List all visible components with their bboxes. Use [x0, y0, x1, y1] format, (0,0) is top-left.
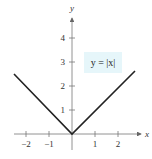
equation-text: y = |x| [91, 57, 116, 68]
y-axis-label: y [69, 3, 74, 13]
chart-canvas: −2 −1 1 2 1 2 3 4 x y [0, 0, 152, 159]
y-tick-label: 3 [61, 57, 66, 67]
y-tick-label: 2 [61, 81, 66, 91]
graph-line [14, 71, 135, 134]
y-tick-label: 1 [61, 105, 66, 115]
x-tick-label: 2 [116, 139, 121, 149]
y-tick-label: 4 [61, 33, 66, 43]
equation-label: y = |x| [84, 52, 122, 73]
x-tick-label: 1 [93, 139, 98, 149]
x-tick-label: −2 [21, 139, 31, 149]
x-tick-label: −1 [44, 139, 54, 149]
x-axis-label: x [144, 129, 149, 139]
